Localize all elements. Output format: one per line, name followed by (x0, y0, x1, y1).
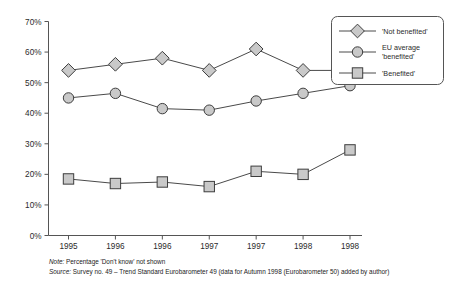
data-point-circle (63, 93, 73, 103)
data-point-circle (204, 105, 214, 115)
legend-entries: 'Not benefited'EU average'benefited''Ben… (339, 24, 428, 78)
y-tick-label: 0% (30, 232, 42, 241)
data-point-diamond (202, 64, 216, 78)
source-label: Source: (49, 268, 71, 275)
x-tick-label: 1995 (59, 242, 78, 251)
chart-series (63, 145, 355, 192)
y-tick-label: 70% (25, 18, 41, 27)
series-layer (62, 42, 357, 192)
legend-marker-square (352, 68, 362, 78)
x-tick-label: 1997 (247, 242, 266, 251)
data-point-circle (298, 88, 308, 98)
x-axis-tick-labels: 1995199619961997199719981998 (59, 242, 359, 251)
legend-marker-circle (352, 47, 362, 57)
data-point-circle (251, 96, 261, 106)
data-point-diamond (62, 64, 76, 78)
source-footnote: Source: Survey no. 49 – Trend Standard E… (49, 268, 389, 276)
data-point-circle (157, 103, 167, 113)
data-point-diamond (155, 51, 169, 65)
note-label: Note: (49, 258, 64, 265)
chart-svg: 0%10%20%30%40%50%60%70% 1995199619961997… (0, 0, 449, 283)
y-tick-label: 20% (25, 170, 41, 179)
legend-label: EU average (382, 43, 420, 52)
legend-label: 'Not benefited' (382, 27, 428, 36)
note-text: Percentage 'Don't know' not shown (64, 258, 165, 266)
y-axis-tick-labels: 0%10%20%30%40%50%60%70% (25, 18, 41, 241)
data-point-square (251, 166, 261, 176)
x-tick-label: 1998 (341, 242, 360, 251)
data-point-square (157, 177, 167, 187)
data-point-square (63, 174, 73, 184)
chart-axes (49, 22, 363, 236)
source-text: Survey no. 49 – Trend Standard Eurobarom… (71, 268, 389, 276)
data-point-diamond (109, 57, 123, 71)
y-tick-label: 40% (25, 109, 41, 118)
note-footnote: Note: Percentage 'Don't know' not shown (49, 258, 166, 266)
y-tick-label: 60% (25, 48, 41, 57)
data-point-diamond (249, 42, 263, 56)
chart-series (62, 42, 357, 77)
data-point-square (345, 145, 355, 155)
legend-label: 'Benefited' (382, 69, 416, 78)
chart-figure: 0%10%20%30%40%50%60%70% 1995199619961997… (0, 0, 449, 283)
x-tick-label: 1997 (200, 242, 219, 251)
data-point-square (110, 178, 120, 188)
y-tick-label: 50% (25, 79, 41, 88)
data-point-diamond (296, 64, 310, 78)
x-tick-label: 1996 (106, 242, 125, 251)
data-point-square (204, 181, 214, 191)
y-tick-label: 10% (25, 201, 41, 210)
data-point-square (298, 169, 308, 179)
chart-series (63, 81, 355, 116)
data-point-circle (110, 88, 120, 98)
legend-label: 'benefited' (382, 52, 415, 61)
x-axis-ticks (69, 236, 351, 240)
x-tick-label: 1998 (294, 242, 313, 251)
y-tick-label: 30% (25, 140, 41, 149)
y-axis-ticks (45, 22, 49, 236)
chart-legend: 'Not benefited'EU average'benefited''Ben… (332, 17, 444, 85)
x-tick-label: 1996 (153, 242, 172, 251)
